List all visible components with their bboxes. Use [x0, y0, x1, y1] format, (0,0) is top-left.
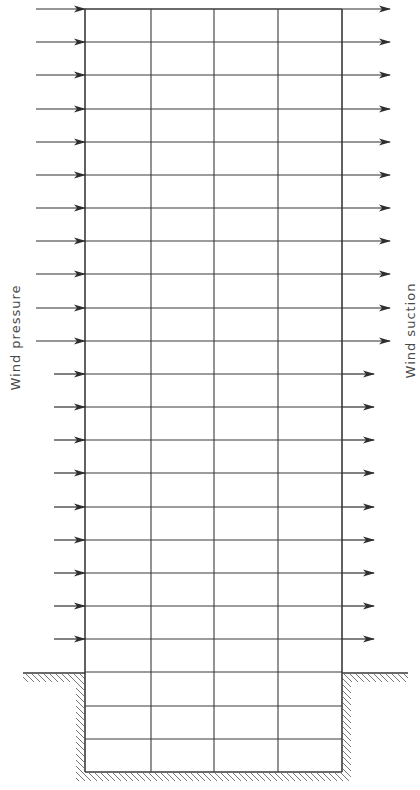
ground-hatch-right — [342, 674, 408, 682]
base-hatch — [76, 773, 351, 781]
building-frame-diagram — [0, 0, 420, 790]
frame-grid — [85, 9, 342, 772]
soil-hatching — [23, 673, 408, 781]
wind-suction-arrows — [342, 9, 390, 639]
wind-pressure-arrows — [36, 9, 85, 639]
wind-pressure-label: Wind pressure — [8, 283, 23, 393]
ground-hatch-left — [23, 674, 85, 682]
wall-hatch-left — [76, 674, 84, 781]
wind-suction-label: Wind suction — [403, 281, 418, 381]
wall-hatch-right — [343, 674, 351, 781]
